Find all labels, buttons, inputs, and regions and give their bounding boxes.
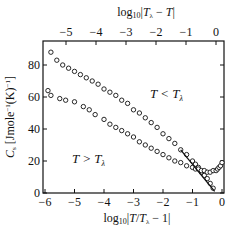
x2-tick-label: 0: [213, 25, 219, 39]
x-tick-label: 0: [219, 195, 225, 209]
data-point: [96, 82, 100, 86]
x-tick-label: −4: [98, 195, 111, 209]
x-tick-label: −5: [68, 195, 81, 209]
data-point: [72, 100, 76, 104]
x-tick-label: −2: [157, 195, 170, 209]
data-point: [49, 50, 53, 54]
data-point: [63, 98, 67, 102]
y-tick-label: 20: [28, 154, 40, 168]
data-point: [102, 87, 106, 91]
data-point: [137, 140, 141, 144]
y-axis: 020406080: [28, 58, 224, 200]
data-point: [167, 136, 171, 140]
data-point: [173, 159, 177, 163]
data-point: [143, 116, 147, 120]
x2-tick-label: −3: [120, 25, 133, 39]
data-point: [46, 88, 50, 92]
data-point: [61, 63, 65, 67]
data-point: [179, 160, 183, 164]
y-tick-label: 40: [28, 122, 40, 136]
x2-tick-label: −2: [150, 25, 163, 39]
data-point: [87, 108, 91, 112]
x-axis-bottom: −6−5−4−3−2−10: [39, 189, 225, 209]
data-point: [149, 146, 153, 150]
annotation-above-lambda: T > Tλ: [72, 151, 106, 168]
data-point: [84, 76, 88, 80]
data-point: [173, 141, 177, 145]
data-point: [120, 128, 124, 132]
data-point: [167, 156, 171, 160]
y-tick-label: 80: [28, 58, 40, 72]
data-point: [55, 58, 59, 62]
specific-heat-chart: 020406080 −6−5−4−3−2−10 −5−4−3−2−10 log1…: [0, 0, 238, 237]
data-point: [125, 132, 129, 136]
data-point: [220, 160, 224, 164]
y-axis-title: Cs [Jmole−1(K)−1]: [3, 76, 18, 158]
data-point: [155, 125, 159, 129]
x2-tick-label: −4: [90, 25, 103, 39]
y-tick-label: 60: [28, 90, 40, 104]
data-point: [102, 117, 106, 121]
data-point: [161, 132, 165, 136]
data-point: [49, 93, 53, 97]
data-point: [131, 135, 135, 139]
data-point: [66, 66, 70, 70]
annotation-below-lambda: T < Tλ: [150, 86, 184, 103]
data-point: [125, 101, 129, 105]
data-point: [149, 120, 153, 124]
data-point: [161, 152, 165, 156]
x-axis-top: −5−4−3−2−10: [60, 25, 219, 45]
data-series: [46, 50, 224, 191]
data-point: [114, 93, 118, 97]
data-point: [108, 122, 112, 126]
data-point: [93, 112, 97, 116]
x2-tick-label: −1: [180, 25, 193, 39]
data-point: [155, 149, 159, 153]
x-axis-title: log10|T/Tλ − 1|: [103, 211, 170, 226]
x2-tick-label: −5: [60, 25, 73, 39]
x-tick-label: −3: [127, 195, 140, 209]
x-tick-label: −6: [39, 195, 52, 209]
data-point: [58, 96, 62, 100]
data-point: [90, 79, 94, 83]
data-point: [137, 111, 141, 115]
data-point: [78, 72, 82, 76]
x2-axis-title: log10|Tλ − T|: [117, 5, 175, 20]
data-point: [108, 90, 112, 94]
series-below-lambda: [49, 50, 216, 190]
x-tick-label: −1: [186, 195, 199, 209]
data-point: [72, 69, 76, 73]
data-point: [143, 143, 147, 147]
data-point: [114, 125, 118, 129]
data-point: [131, 108, 135, 112]
data-point: [184, 164, 188, 168]
data-point: [120, 98, 124, 102]
data-point: [81, 104, 85, 108]
